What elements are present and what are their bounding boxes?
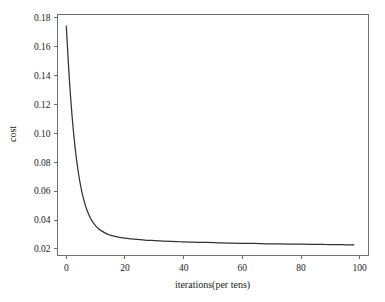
y-tick-label: 0.16 bbox=[34, 42, 51, 52]
y-axis-title: cost bbox=[7, 126, 18, 142]
y-tick-label: 0.06 bbox=[34, 186, 51, 196]
x-tick-label: 80 bbox=[296, 263, 306, 273]
x-tick-label: 60 bbox=[238, 263, 248, 273]
x-tick-label: 0 bbox=[64, 263, 69, 273]
y-axis-tick-labels: 0.020.040.060.080.100.120.140.160.18 bbox=[34, 13, 51, 255]
y-tick-label: 0.02 bbox=[34, 244, 51, 254]
y-tick-label: 0.12 bbox=[34, 100, 51, 110]
y-tick-label: 0.18 bbox=[34, 13, 51, 23]
x-tick-label: 40 bbox=[179, 263, 189, 273]
x-tick-label: 100 bbox=[353, 263, 368, 273]
x-axis-title: iterations(per tens) bbox=[175, 279, 250, 291]
y-tick-label: 0.14 bbox=[34, 71, 51, 81]
chart-figure: 0.020.040.060.080.100.120.140.160.18 020… bbox=[0, 0, 385, 302]
cost-vs-iterations-line-chart: 0.020.040.060.080.100.120.140.160.18 020… bbox=[0, 0, 385, 302]
y-tick-label: 0.10 bbox=[34, 129, 51, 139]
y-tick-label: 0.04 bbox=[34, 215, 51, 225]
y-tick-label: 0.08 bbox=[34, 158, 51, 168]
x-tick-label: 20 bbox=[120, 263, 130, 273]
